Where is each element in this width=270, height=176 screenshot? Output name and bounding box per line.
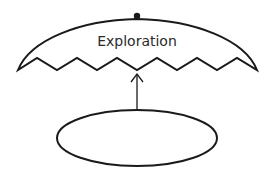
up-arrow bbox=[131, 74, 143, 110]
top-dot-icon bbox=[134, 13, 140, 19]
bottom-ellipse bbox=[57, 110, 217, 166]
exploration-label: Exploration bbox=[97, 33, 177, 49]
exploration-diagram: Exploration bbox=[0, 0, 270, 176]
exploration-dome: Exploration bbox=[18, 13, 257, 70]
